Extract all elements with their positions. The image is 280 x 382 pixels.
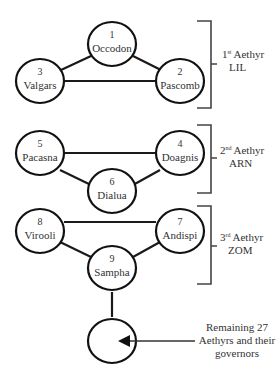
node-name: Doagnis bbox=[162, 151, 199, 163]
node-number: 4 bbox=[178, 138, 183, 149]
node-sampha: 9 Sampha bbox=[88, 246, 136, 290]
node-number: 5 bbox=[38, 138, 43, 149]
group-2-name: ARN bbox=[229, 157, 252, 169]
edge-andispi-sampha bbox=[133, 242, 160, 257]
node-number: 7 bbox=[178, 216, 183, 227]
edge-occodon-pascomb bbox=[133, 56, 161, 70]
remaining-label-line3: governors bbox=[215, 347, 259, 359]
node-name: Andispi bbox=[163, 229, 198, 241]
remaining-label-line2: Aethyrs and their bbox=[199, 334, 276, 346]
node-valgars: 3 Valgars bbox=[16, 59, 64, 103]
node-name: Pascomb bbox=[160, 79, 200, 91]
node-occodon: 1 Occodon bbox=[88, 22, 136, 66]
node-number: 2 bbox=[178, 66, 183, 77]
node-name: Dialua bbox=[97, 189, 126, 201]
node-name: Virooli bbox=[24, 229, 55, 241]
node-doagnis: 4 Doagnis bbox=[156, 131, 204, 175]
remaining-label-line1: Remaining 27 bbox=[206, 321, 269, 333]
node-number: 3 bbox=[38, 66, 43, 77]
group-2-label: 2ndAethyr bbox=[220, 144, 264, 156]
node-dialua: 6 Dialua bbox=[88, 169, 136, 213]
node-number: 8 bbox=[38, 216, 43, 227]
node-name: Pacasna bbox=[22, 151, 58, 163]
group-1-label: 1stAethyr bbox=[222, 48, 264, 60]
edge-pacasna-dialua bbox=[60, 170, 91, 185]
group-3-name: ZOM bbox=[228, 244, 253, 256]
edge-doagnis-dialua bbox=[133, 170, 160, 185]
node-number: 9 bbox=[110, 253, 115, 264]
group-3-label: 3rdAethyr bbox=[220, 231, 263, 243]
node-name: Sampha bbox=[94, 266, 130, 278]
node-virooli: 8 Virooli bbox=[16, 209, 64, 253]
node-name: Occodon bbox=[92, 42, 132, 54]
edge-occodon-valgars bbox=[61, 56, 91, 70]
node-pascomb: 2 Pascomb bbox=[156, 59, 204, 103]
node-andispi: 7 Andispi bbox=[156, 209, 204, 253]
node-number: 1 bbox=[110, 29, 115, 40]
node-pacasna: 5 Pacasna bbox=[16, 131, 64, 175]
aethyr-governors-diagram: 1 Occodon 2 Pascomb 3 Valgars 4 Doagnis … bbox=[0, 0, 280, 382]
edge-virooli-sampha bbox=[60, 242, 91, 257]
node-name: Valgars bbox=[24, 79, 57, 91]
group-1-name: LIL bbox=[229, 61, 246, 73]
node-number: 6 bbox=[110, 176, 115, 187]
